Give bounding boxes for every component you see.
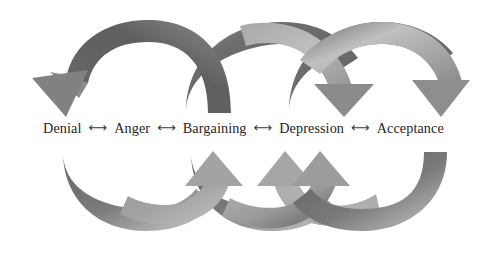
stage-label-depression: Depression xyxy=(279,120,344,137)
bidirectional-arrow-icon-4: ⟷ xyxy=(344,121,377,134)
arrowhead-down-depression xyxy=(314,84,374,117)
arrowhead-down-acceptance xyxy=(412,80,470,117)
stage-label-bargaining: Bargaining xyxy=(183,120,247,137)
bidirectional-arrow-icon-2: ⟷ xyxy=(150,121,183,134)
bidirectional-arrow-icon-1: ⟷ xyxy=(82,121,115,134)
stage-label-denial: Denial xyxy=(43,120,81,137)
stage-label-anger: Anger xyxy=(114,120,150,137)
arrowhead-group-denial xyxy=(32,70,88,117)
arc-top-bargaining-to-denial xyxy=(66,20,231,113)
grief-stages-diagram: Denial ⟷ Anger ⟷ Bargaining ⟷ Depression… xyxy=(0,0,487,263)
stage-label-acceptance: Acceptance xyxy=(377,120,444,137)
arrowhead-up-acceptance xyxy=(292,151,350,186)
bidirectional-arrow-icon-3: ⟷ xyxy=(247,121,280,134)
arrowhead-up-bargaining xyxy=(185,151,243,186)
